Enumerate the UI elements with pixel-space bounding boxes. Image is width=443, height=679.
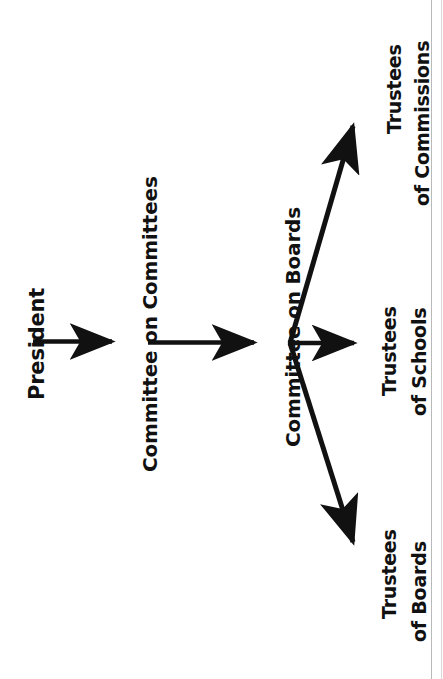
node-trustees-of-boards-line2: of Boards xyxy=(410,541,429,642)
node-trustees-of-boards-line1: Trustees xyxy=(380,529,399,619)
node-trustees-of-schools-line2: of Schools xyxy=(410,308,429,416)
node-committee-on-boards: Committee on Boards xyxy=(283,207,303,447)
page-edge-line xyxy=(431,0,432,679)
arrow-layer xyxy=(0,0,443,679)
node-trustees-of-schools-line1: Trustees xyxy=(380,306,399,396)
page-edge-line-outer xyxy=(441,0,442,679)
diagram-page: President Committee on Committees Commit… xyxy=(0,0,443,679)
node-trustees-of-commissions-line2: of Commissions xyxy=(413,41,432,206)
node-committee-on-committees: Committee on Committees xyxy=(140,176,160,472)
node-trustees-of-commissions-line1: Trustees xyxy=(385,44,404,134)
node-president: President xyxy=(27,288,48,400)
